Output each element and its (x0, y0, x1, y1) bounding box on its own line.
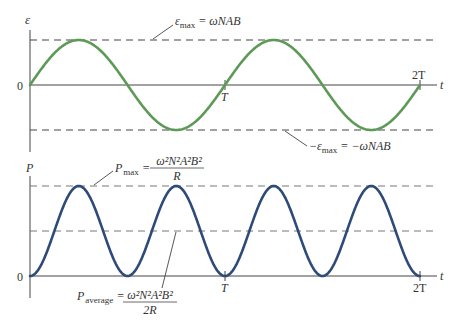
emf-x-axis-label: t (440, 78, 444, 92)
emf-origin-label: 0 (17, 79, 23, 93)
emf-max-annotation: εmax= ωNAB (175, 14, 241, 30)
power-max-lhs: Pmax= (114, 161, 150, 177)
power-average-denominator: 2R (143, 303, 157, 317)
power-plot: P 0 t T 2T Pmax= ω²N²A²B² R Paverage= ω²… (17, 154, 444, 317)
power-max-leader-line (94, 171, 113, 185)
power-max-denominator: R (172, 169, 181, 183)
emf-tick-label-T: T (221, 90, 229, 104)
emf-power-diagram: ε 0 t T 2T εmax= ωNAB −εmax= −ωNAB P 0 t… (0, 0, 459, 325)
power-tick-label-2T: 2T (413, 281, 427, 295)
power-y-axis-label: P (25, 161, 34, 175)
power-origin-label: 0 (17, 270, 23, 284)
emf-y-axis-label: ε (25, 12, 31, 27)
emf-plot: ε 0 t T 2T εmax= ωNAB −εmax= −ωNAB (17, 12, 444, 155)
power-average-lhs: Paverage= (76, 289, 124, 305)
power-tick-label-T: T (221, 281, 229, 295)
emf-max-leader-line (153, 25, 173, 39)
power-average-numerator: ω²N²A²B² (127, 288, 173, 302)
emf-min-annotation: −εmax= −ωNAB (309, 139, 391, 155)
emf-min-leader-line (285, 131, 307, 146)
power-max-numerator: ω²N²A²B² (156, 154, 202, 168)
emf-tick-label-2T: 2T (412, 68, 426, 82)
power-x-axis-label: t (440, 269, 444, 283)
power-average-leader-line (162, 232, 176, 288)
